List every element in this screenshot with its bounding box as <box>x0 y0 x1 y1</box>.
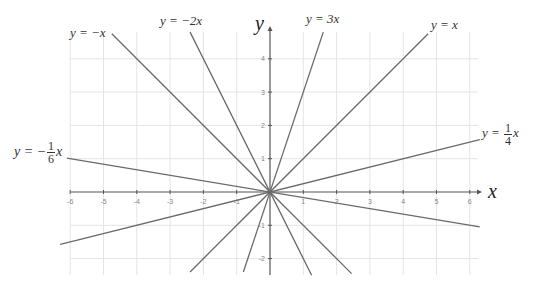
grid-lines <box>70 32 478 275</box>
x-tick-label: 6 <box>468 198 472 205</box>
y-tick-label: 2 <box>261 122 265 129</box>
x-axis-label: x <box>488 180 497 203</box>
label-y-3x: y = 3x <box>306 11 339 27</box>
label-text: y = −2x <box>160 13 202 28</box>
y-tick-label: 1 <box>261 155 265 162</box>
y-axis-label: y <box>255 12 264 35</box>
label-text: y = −x <box>70 25 106 40</box>
graph-canvas: -6-5-4-3-2-1123456-2-11234 <box>0 0 536 294</box>
label-text: y = − <box>14 144 46 159</box>
label-y-neg-x: y = −x <box>70 25 106 41</box>
x-tick-label: -6 <box>67 198 73 205</box>
y-tick-label: -2 <box>259 255 265 262</box>
x-tick-label: 4 <box>401 198 405 205</box>
fraction: 14 <box>504 122 512 147</box>
y-tick-label: 4 <box>261 55 265 62</box>
label-y-x: y = x <box>431 17 458 33</box>
function-line <box>190 32 312 275</box>
denominator: 6 <box>47 153 55 165</box>
x-axis-arrow-icon <box>477 190 482 195</box>
label-y-neg-2x: y = −2x <box>160 13 202 29</box>
label-text: y = <box>482 125 503 140</box>
x-tick-label: -3 <box>167 198 173 205</box>
label-text: y = x <box>431 17 458 32</box>
function-line <box>112 34 352 274</box>
x-tick-label: 1 <box>301 198 305 205</box>
y-axis-arrow-icon <box>268 26 273 31</box>
label-text: x <box>56 144 62 159</box>
x-tick-label: -5 <box>100 198 106 205</box>
x-tick-label: -4 <box>134 198 140 205</box>
x-tick-label: -2 <box>200 198 206 205</box>
x-tick-label: 3 <box>368 198 372 205</box>
y-tick-label: 3 <box>261 89 265 96</box>
denominator: 4 <box>504 135 512 147</box>
x-tick-label: 5 <box>435 198 439 205</box>
function-line <box>190 34 428 272</box>
label-text: x <box>513 125 519 140</box>
fraction: 16 <box>47 140 55 165</box>
axes <box>71 26 482 275</box>
label-y-neg-sixth-x: y = −16x <box>14 140 62 165</box>
label-y-quarter-x: y = 14x <box>482 122 519 147</box>
label-text: y = 3x <box>306 11 339 26</box>
function-line <box>243 32 323 272</box>
